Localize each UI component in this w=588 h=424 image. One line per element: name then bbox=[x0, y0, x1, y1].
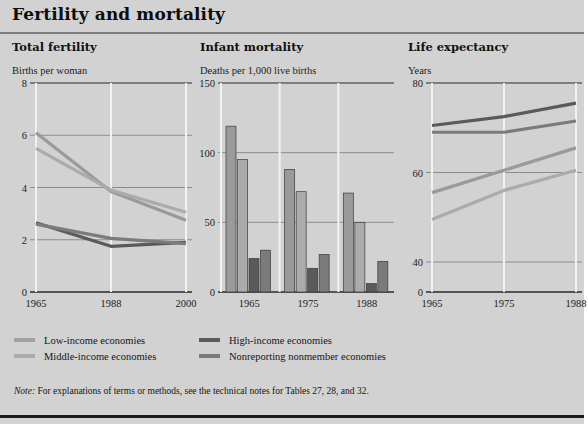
ytick-label-life-expectancy-80: 80 bbox=[413, 78, 427, 89]
ytick-label-life-expectancy-0: 0 bbox=[418, 287, 426, 298]
note-text: For explanations of terms or methods, se… bbox=[35, 386, 369, 396]
legend-item-label: High-income economies bbox=[229, 335, 332, 346]
xtick-label-life-expectancy-1988: 1988 bbox=[566, 298, 587, 309]
bar-infant-mortality-1965-2 bbox=[249, 259, 259, 292]
bottom-divider bbox=[0, 415, 584, 418]
plot-area-life-expectancy: 0406080196519751988 bbox=[426, 79, 588, 316]
axis-unit-label-life-expectancy: Years bbox=[408, 65, 588, 76]
note-prefix: Note: bbox=[14, 386, 35, 396]
xtick-label-infant-mortality-1975: 1975 bbox=[298, 298, 319, 309]
ytick-label-infant-mortality-100: 100 bbox=[199, 147, 218, 158]
ytick-label-total-fertility-2: 2 bbox=[22, 234, 30, 245]
panel-title-life-expectancy: Life expectancy bbox=[408, 40, 588, 54]
legend-column-0: Low-income economiesMiddle-income econom… bbox=[14, 332, 156, 364]
ytick-label-total-fertility-0: 0 bbox=[22, 287, 30, 298]
chart-svg-infant-mortality bbox=[218, 79, 400, 294]
legend-column-1: High-income economiesNonreporting nonmem… bbox=[199, 332, 386, 364]
bar-infant-mortality-1975-3 bbox=[319, 254, 329, 292]
ytick-label-infant-mortality-0: 0 bbox=[210, 287, 218, 298]
figure-note: Note: For explanations of terms or metho… bbox=[14, 386, 369, 396]
bar-infant-mortality-1965-0 bbox=[226, 126, 236, 292]
legend-swatch-icon bbox=[14, 354, 35, 358]
legend-item[interactable]: High-income economies bbox=[199, 332, 386, 348]
bar-infant-mortality-1975-0 bbox=[285, 169, 295, 292]
panel-infant-mortality: Infant mortality Deaths per 1,000 live b… bbox=[200, 40, 400, 316]
legend-item-label: Nonreporting nonmember economies bbox=[229, 351, 386, 362]
panel-life-expectancy: Life expectancy Years 040608019651975198… bbox=[408, 40, 588, 316]
bar-infant-mortality-1975-1 bbox=[296, 192, 306, 292]
bar-infant-mortality-1965-1 bbox=[238, 160, 248, 292]
plot-area-infant-mortality: 050100150196519751988 bbox=[218, 79, 400, 316]
ytick-label-infant-mortality-50: 50 bbox=[205, 217, 219, 228]
bar-infant-mortality-1988-0 bbox=[343, 193, 353, 292]
panel-title-total-fertility: Total fertility bbox=[12, 40, 198, 54]
legend-item[interactable]: Nonreporting nonmember economies bbox=[199, 348, 386, 364]
bar-infant-mortality-1988-1 bbox=[355, 222, 365, 292]
bar-infant-mortality-1975-2 bbox=[308, 268, 318, 292]
bar-infant-mortality-1988-3 bbox=[378, 261, 388, 292]
axis-unit-label-total-fertility: Births per woman bbox=[12, 65, 198, 76]
xtick-label-infant-mortality-1965: 1965 bbox=[239, 298, 260, 309]
xtick-label-life-expectancy-1975: 1975 bbox=[494, 298, 515, 309]
ytick-label-infant-mortality-150: 150 bbox=[199, 78, 218, 89]
panel-title-infant-mortality: Infant mortality bbox=[200, 40, 400, 54]
bar-infant-mortality-1988-2 bbox=[366, 284, 376, 292]
chart-svg-total-fertility bbox=[30, 79, 198, 294]
ytick-label-total-fertility-6: 6 bbox=[22, 130, 30, 141]
legend-swatch-icon bbox=[14, 338, 35, 342]
legend-item[interactable]: Middle-income economies bbox=[14, 348, 156, 364]
legend-item-label: Low-income economies bbox=[44, 335, 145, 346]
xtick-label-infant-mortality-1988: 1988 bbox=[356, 298, 377, 309]
legend-swatch-icon bbox=[199, 338, 220, 342]
legend-swatch-icon bbox=[199, 354, 220, 358]
ytick-label-life-expectancy-60: 60 bbox=[413, 167, 427, 178]
axis-unit-label-infant-mortality: Deaths per 1,000 live births bbox=[200, 65, 400, 76]
legend-item[interactable]: Low-income economies bbox=[14, 332, 156, 348]
xtick-label-life-expectancy-1965: 1965 bbox=[422, 298, 443, 309]
ytick-label-total-fertility-4: 4 bbox=[22, 182, 30, 193]
chart-svg-life-expectancy bbox=[426, 79, 588, 294]
ytick-label-total-fertility-8: 8 bbox=[22, 78, 30, 89]
bar-infant-mortality-1965-3 bbox=[261, 250, 271, 292]
title-divider bbox=[0, 32, 584, 34]
figure-title: Fertility and mortality bbox=[12, 4, 225, 24]
xtick-label-total-fertility-1965: 1965 bbox=[26, 298, 47, 309]
legend-item-label: Middle-income economies bbox=[44, 351, 156, 362]
panel-total-fertility: Total fertility Births per woman 0246819… bbox=[12, 40, 198, 316]
xtick-label-total-fertility-1988: 1988 bbox=[101, 298, 122, 309]
ytick-label-life-expectancy-40: 40 bbox=[413, 257, 427, 268]
xtick-label-total-fertility-2000: 2000 bbox=[176, 298, 197, 309]
plot-area-total-fertility: 02468196519882000 bbox=[30, 79, 198, 316]
